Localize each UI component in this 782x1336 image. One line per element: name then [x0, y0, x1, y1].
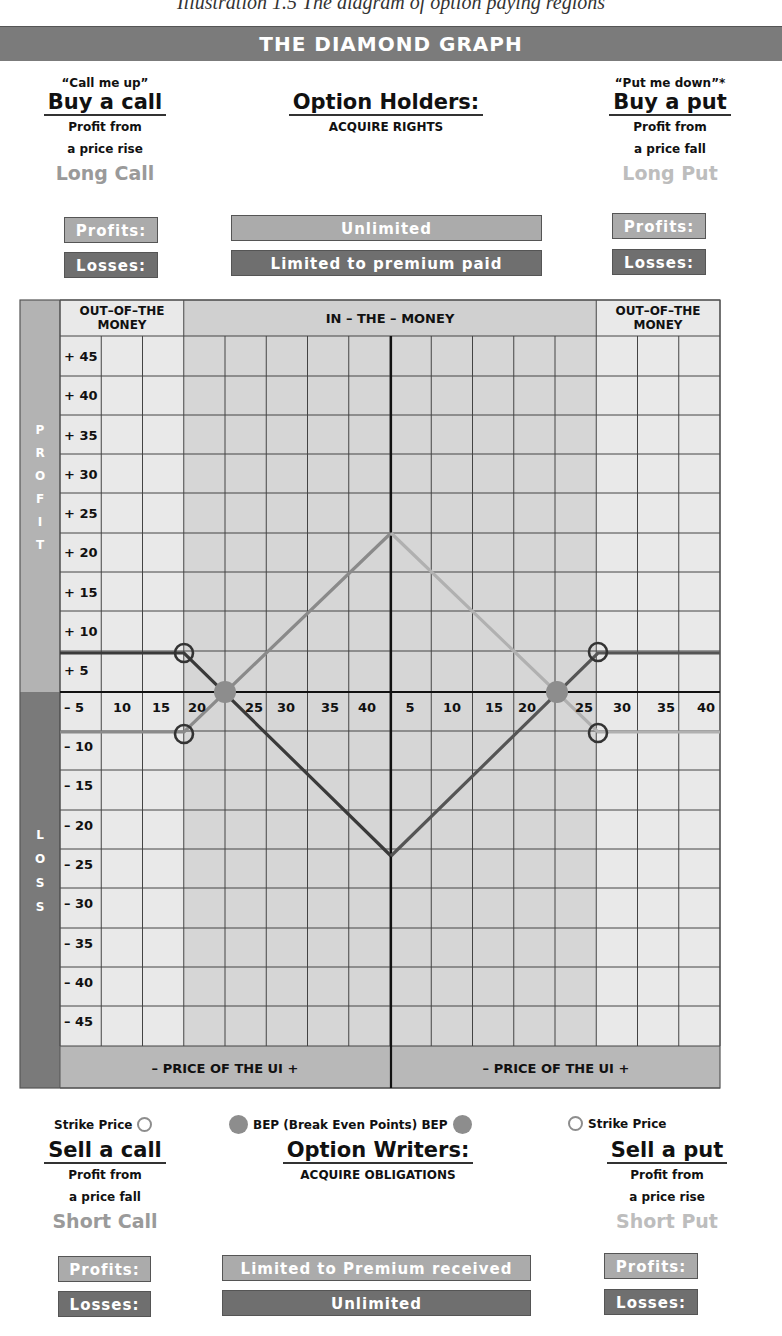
- sell-call-headline: Sell a call: [44, 1138, 166, 1164]
- x-tick-label: 35: [321, 700, 339, 715]
- strike-legend-right-label: Strike Price: [588, 1117, 666, 1131]
- bep-legend: BEP (Break Even Points) BEP: [229, 1115, 472, 1134]
- loss-bar: [20, 692, 60, 1088]
- x-tick-label: 25: [245, 700, 263, 715]
- zone-label-itm: IN – THE – MONEY: [326, 311, 455, 326]
- sell-put-position: Short Put: [572, 1210, 762, 1232]
- x-tick-label: 35: [657, 700, 675, 715]
- zone-label-otm-right: MONEY: [633, 318, 682, 332]
- loss-letter: S: [36, 900, 45, 914]
- sell-put-headline: Sell a put: [607, 1138, 728, 1164]
- y-tick-label: – 45: [64, 1014, 93, 1029]
- y-tick-label: + 5: [64, 663, 88, 678]
- x-tick-label: 25: [575, 700, 593, 715]
- profit-letter: O: [35, 469, 45, 483]
- strike-legend-left: Strike Price: [54, 1117, 152, 1132]
- x-tick-label: 10: [443, 700, 461, 715]
- bep-dot-icon: [229, 1115, 248, 1134]
- option-writers-subtitle: ACQUIRE OBLIGATIONS: [222, 1167, 534, 1183]
- y-tick-label: + 15: [64, 585, 98, 600]
- strike-ring-icon: [137, 1117, 152, 1132]
- y-tick-label: + 40: [64, 388, 98, 403]
- sell-put-line1: Profit from: [572, 1164, 762, 1186]
- y-tick-label: + 25: [64, 506, 98, 521]
- y-tick-label: – 40: [64, 975, 93, 990]
- sell-put-line2: a price rise: [572, 1186, 762, 1208]
- x-tick-label: 10: [113, 700, 131, 715]
- diamond-chart: OUT–OF–THEMONEYIN – THE – MONEYOUT–OF–TH…: [0, 0, 782, 1336]
- y-tick-label: + 30: [64, 467, 98, 482]
- sell-put-losses-label: Losses:: [604, 1289, 698, 1315]
- y-tick-label: – 15: [64, 778, 93, 793]
- y-tick-label: – 10: [64, 739, 93, 754]
- loss-letter: O: [35, 852, 45, 866]
- y-tick-label: – 20: [64, 818, 93, 833]
- loss-letter: S: [36, 876, 45, 890]
- x-tick-label: 15: [152, 700, 170, 715]
- option-writers-headline: Option Writers:: [283, 1138, 474, 1164]
- bep-left-marker: [214, 681, 236, 703]
- writers-profits-value: Limited to Premium received: [222, 1255, 531, 1281]
- x-tick-label: 20: [518, 700, 536, 715]
- bep-right-marker: [546, 681, 568, 703]
- y-tick-label: – 30: [64, 896, 93, 911]
- y-tick-label: + 10: [64, 624, 98, 639]
- profit-letter: F: [36, 492, 44, 506]
- y-tick-label: – 35: [64, 936, 93, 951]
- sell-put-block: Sell a put Profit from a price rise Shor…: [572, 1138, 762, 1232]
- loss-letter: L: [36, 828, 44, 842]
- zone-label-otm-left: OUT–OF–THE: [80, 304, 165, 318]
- profit-letter: R: [35, 446, 44, 460]
- y-tick-label: – 25: [64, 857, 93, 872]
- zone-label-otm-right: OUT–OF–THE: [616, 304, 701, 318]
- x-tick-label: 40: [358, 700, 376, 715]
- x-tick-label: 30: [277, 700, 295, 715]
- x-tick-label: 15: [485, 700, 503, 715]
- strike-legend-right: Strike Price: [568, 1116, 666, 1131]
- sell-call-block: Sell a call Profit from a price fall Sho…: [20, 1138, 190, 1232]
- y-tick-label: + 35: [64, 428, 98, 443]
- price-axis-label-left: – PRICE OF THE UI +: [152, 1061, 299, 1076]
- writers-losses-value: Unlimited: [222, 1290, 531, 1316]
- x-tick-label: 30: [613, 700, 631, 715]
- price-axis-label-right: – PRICE OF THE UI +: [483, 1061, 630, 1076]
- otm-zone-right: [596, 300, 720, 1046]
- bep-dot-icon: [453, 1115, 472, 1134]
- strike-legend-left-label: Strike Price: [54, 1118, 132, 1132]
- sell-call-profits-label: Profits:: [58, 1256, 151, 1282]
- sell-call-line2: a price fall: [20, 1186, 190, 1208]
- x-tick-label: 20: [188, 700, 206, 715]
- sell-call-line1: Profit from: [20, 1164, 190, 1186]
- profit-letter: I: [38, 515, 42, 529]
- y-tick-label: + 20: [64, 545, 98, 560]
- strike-ring-icon: [568, 1116, 583, 1131]
- y-tick-label: + 45: [64, 349, 98, 364]
- zone-label-otm-left: MONEY: [97, 318, 146, 332]
- sell-call-position: Short Call: [20, 1210, 190, 1232]
- bep-legend-label: BEP (Break Even Points) BEP: [253, 1118, 448, 1132]
- option-writers-block: Option Writers: ACQUIRE OBLIGATIONS: [222, 1138, 534, 1183]
- x-tick-label: 40: [697, 700, 715, 715]
- profit-letter: P: [36, 423, 45, 437]
- sell-put-profits-label: Profits:: [604, 1253, 698, 1279]
- x-tick-label: 5: [405, 700, 414, 715]
- profit-letter: T: [36, 538, 45, 552]
- sell-call-losses-label: Losses:: [58, 1291, 151, 1317]
- y-tick-label: – 5: [64, 700, 84, 715]
